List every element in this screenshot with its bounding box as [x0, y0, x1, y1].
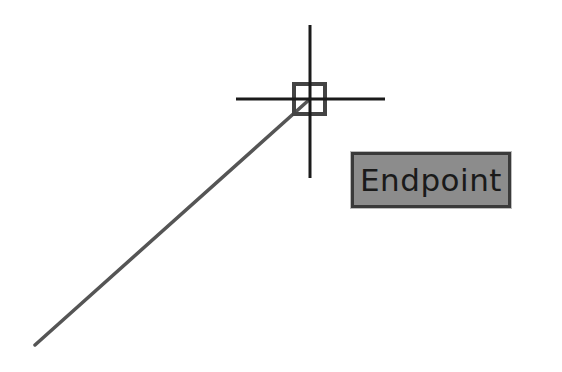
drawing-canvas[interactable]: Endpoint: [0, 0, 562, 372]
drawn-line[interactable]: [35, 99, 310, 345]
osnap-tooltip: Endpoint: [351, 152, 511, 208]
osnap-tooltip-label: Endpoint: [360, 165, 502, 196]
